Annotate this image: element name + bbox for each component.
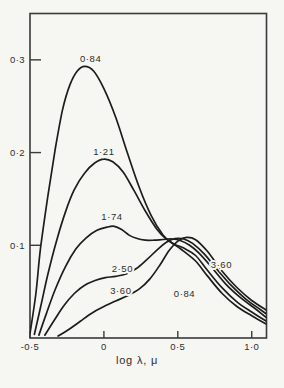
x-tick-label: 0·5 xyxy=(170,341,185,352)
curve-value-label: 0·84 xyxy=(80,53,101,64)
curve-2-50 xyxy=(45,238,267,335)
curve-value-label: 1·21 xyxy=(93,146,114,157)
x-tick-label: 1·0 xyxy=(244,341,259,352)
x-tick-label: -0·5 xyxy=(21,341,40,352)
curve-value-label: 3·60 xyxy=(110,285,131,296)
curve-1-21 xyxy=(34,159,266,334)
curve-0-84 xyxy=(30,66,267,333)
curve-value-label: 3·60 xyxy=(211,259,232,270)
curve-value-label: 0·84 xyxy=(174,288,195,299)
y-tick-label: 0·3 xyxy=(10,54,25,65)
x-tick-label: 0 xyxy=(101,341,107,352)
curve-value-label: 1·74 xyxy=(101,211,122,222)
y-tick-label: 0·1 xyxy=(10,240,25,251)
y-tick-label: 0·2 xyxy=(10,147,25,158)
spectral-curves-figure: -0·500·51·00·10·20·3log λ, μ0·841·211·74… xyxy=(0,0,284,388)
x-axis-title: log λ, μ xyxy=(116,354,158,366)
curve-value-label: 2·50 xyxy=(112,263,133,274)
curve-1-74 xyxy=(39,226,267,335)
chart-canvas: -0·500·51·00·10·20·3log λ, μ0·841·211·74… xyxy=(0,0,284,388)
curve-3-60 xyxy=(58,237,266,336)
